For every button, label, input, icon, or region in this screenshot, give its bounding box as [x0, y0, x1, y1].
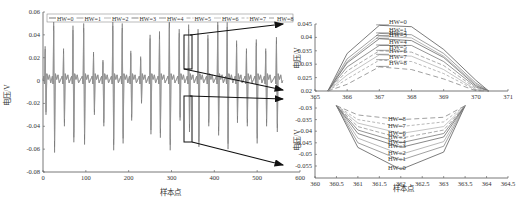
main-legend: HW=0HW=1HW=2HW=3HW=4HW=5HW=6HW=7HW=8 [47, 14, 293, 22]
x-tick-label: 362.5 [415, 180, 430, 187]
x-tick-label: 100 [81, 174, 91, 181]
x-tick-label: 370 [471, 93, 481, 100]
top-zoom-chart: 3653663673683693703710.0450.040.0350.030… [292, 18, 513, 100]
series-line [328, 25, 489, 91]
series-label: HW=8 [389, 59, 407, 66]
main-y-axis-label: 电压/V [2, 84, 12, 106]
x-tick-label: 364.5 [501, 180, 516, 187]
legend-item: HW=0 [57, 16, 73, 22]
series-label: HW=2 [388, 149, 406, 156]
arrow-top-upper [190, 24, 283, 35]
x-tick-label: 400 [209, 174, 219, 181]
legend-item: HW=2 [112, 16, 128, 22]
x-tick-label: 371 [503, 93, 513, 100]
y-tick-label: 0.04 [301, 33, 313, 40]
legend-item: HW=8 [277, 16, 293, 22]
arrow-top-lower [184, 69, 283, 90]
arrow-bottom-lower [192, 142, 283, 165]
arrow-bottom-upper [190, 96, 283, 99]
y-tick-label: 0.045 [297, 20, 312, 27]
y-tick-label: 0.04 [29, 31, 41, 38]
y-tick-label: -0.035 [295, 116, 312, 123]
x-tick-label: 367 [374, 93, 385, 100]
bottom-zoom-y-axis-label: 电压/V [292, 129, 302, 151]
legend-item: HW=3 [140, 16, 156, 22]
y-tick-label: 0.03 [301, 60, 312, 67]
series-line [328, 39, 489, 91]
zoom-indicators [184, 24, 283, 165]
x-tick-label: 360.5 [329, 180, 344, 187]
top-zoom-y-axis-label: 电压/V [292, 47, 302, 69]
series-label: HW=0 [389, 18, 407, 25]
series-label: HW=8 [388, 115, 406, 122]
legend-item: HW=1 [85, 16, 101, 22]
main-waveform-lines [43, 18, 283, 153]
x-tick-label: 600 [295, 174, 305, 181]
main-chart: 01002003004005006000.060.040.020-0.02-0.… [2, 8, 305, 197]
series-label: HW=7 [388, 122, 406, 129]
x-tick-label: 363 [439, 180, 449, 187]
y-tick-label: -0.04 [26, 122, 40, 129]
main-x-axis-label: 样本点 [160, 187, 182, 197]
y-tick-label: -0.03 [298, 104, 312, 111]
bottom-zoom-x-axis-label: 样本点 [393, 183, 415, 193]
series-label: HW=6 [388, 129, 406, 136]
x-tick-label: 200 [124, 174, 134, 181]
legend-item: HW=4 [167, 16, 183, 22]
series-line [328, 67, 489, 91]
bottom-zoom-lines: HW=0HW=1HW=2HW=3HW=4HW=5HW=6HW=7HW=8 [336, 106, 465, 172]
top-zoom-lines: HW=0HW=1HW=2HW=3HW=4HW=5HW=6HW=7HW=8 [328, 18, 489, 91]
x-tick-label: 369 [439, 93, 449, 100]
x-tick-label: 368 [407, 93, 417, 100]
x-tick-label: 0 [41, 174, 44, 181]
legend-item: HW=7 [250, 16, 266, 22]
y-tick-label: -0.055 [295, 162, 312, 169]
series-line [328, 51, 489, 91]
legend-item: HW=6 [222, 16, 238, 22]
series-label: HW=0 [388, 164, 406, 171]
bottom-zoom-chart: 360360.5361361.5362362.5363363.5364364.5… [292, 98, 515, 193]
x-tick-label: 360 [310, 180, 320, 187]
legend-item: HW=5 [195, 16, 211, 22]
x-tick-label: 300 [167, 174, 177, 181]
y-tick-label: 0 [37, 77, 40, 84]
y-tick-label: -0.02 [26, 99, 40, 106]
y-tick-label: -0.08 [26, 168, 40, 175]
x-tick-label: 366 [342, 93, 353, 100]
x-tick-label: 363.5 [458, 180, 473, 187]
y-tick-label: 0.06 [29, 8, 41, 15]
main-axes: 01002003004005006000.060.040.020-0.02-0.… [26, 8, 304, 181]
x-tick-label: 361.5 [372, 180, 387, 187]
zoom-box-bottom [184, 96, 192, 142]
x-tick-label: 361 [353, 180, 363, 187]
y-tick-label: 0.02 [29, 54, 40, 61]
x-tick-label: 364 [482, 180, 493, 187]
y-tick-label: 0.02 [301, 87, 312, 94]
y-tick-label: 0.025 [297, 74, 312, 81]
x-tick-label: 500 [252, 174, 262, 181]
y-tick-label: -0.06 [26, 145, 40, 152]
figure: 01002003004005006000.060.040.020-0.02-0.… [0, 0, 527, 202]
